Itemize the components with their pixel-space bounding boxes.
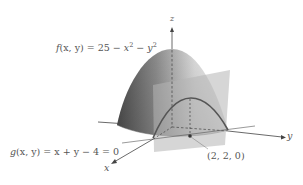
x-arrow-icon xyxy=(111,159,117,164)
y-arrow-icon xyxy=(281,135,286,140)
surface-equation-label: f(x, y) = 25 − x2 − y2 xyxy=(56,43,157,53)
point-label: (2, 2, 0) xyxy=(207,151,245,161)
y-axis xyxy=(228,131,282,137)
y-axis-label: y xyxy=(287,131,292,141)
surface-minus: − xyxy=(133,42,147,53)
constraint-equation-label: g(x, y) = x + y − 4 = 0 xyxy=(10,147,119,157)
x-axis-label: x xyxy=(104,163,109,173)
surface-exp-y: 2 xyxy=(153,41,157,49)
z-axis-label: z xyxy=(170,15,174,23)
constraint-fn-args: (x, y) xyxy=(16,146,40,157)
constraint-eq-text: = x + y − 4 = 0 xyxy=(40,146,119,157)
surface-fn-args: (x, y) xyxy=(60,42,84,53)
paraboloid-diagram xyxy=(0,0,303,185)
z-arrow-icon xyxy=(170,27,174,32)
surface-eq-text: = 25 − xyxy=(84,42,124,53)
